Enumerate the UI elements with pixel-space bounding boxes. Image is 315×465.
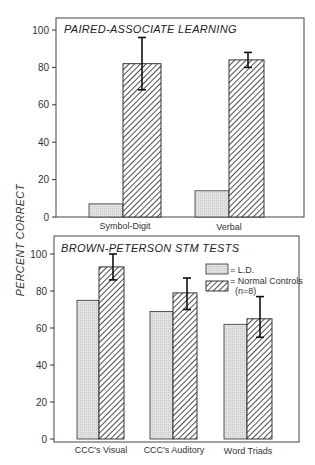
y-tick-label: 80 <box>38 62 50 73</box>
panel-title: PAIRED-ASSOCIATE LEARNING <box>64 23 237 35</box>
legend-swatch-normal <box>206 281 228 291</box>
y-axis: 0 20 40 60 80 100 <box>32 25 56 223</box>
legend-label-ld: = L.D. <box>230 265 254 275</box>
y-tick-label: 0 <box>43 212 49 223</box>
bar-ld-ccc-auditory <box>150 311 173 439</box>
y-tick-label: 60 <box>36 323 48 334</box>
y-axis-label: PERCENT CORRECT <box>14 183 26 297</box>
y-tick-label: 100 <box>32 25 49 36</box>
chart-brown-peterson: BROWN-PETERSON STM TESTS 0 20 40 60 80 1… <box>30 236 303 456</box>
bar-normal-verbal <box>229 60 264 217</box>
y-tick-label: 20 <box>38 174 50 185</box>
figure: PERCENT CORRECT PAIRED-ASSOCIATE LEARNIN… <box>0 0 315 465</box>
legend-label-normal-n: (n=8) <box>235 286 256 296</box>
y-tick-label: 80 <box>36 286 48 297</box>
y-tick-label: 100 <box>30 249 47 260</box>
x-category-label: Word Triads <box>224 446 273 456</box>
bar-ld-symbol-digit <box>89 204 123 217</box>
y-tick-label: 0 <box>41 434 47 445</box>
y-axis: 0 20 40 60 80 100 <box>30 249 54 445</box>
y-tick-label: 40 <box>36 360 48 371</box>
y-tick-label: 40 <box>38 137 50 148</box>
x-category-label: Symbol-Digit <box>99 221 151 231</box>
x-category-label: CCC's Visual <box>75 445 128 455</box>
bar-ld-ccc-visual <box>77 300 99 439</box>
y-tick-label: 60 <box>38 99 50 110</box>
chart-paired-associate: PAIRED-ASSOCIATE LEARNING 0 20 40 60 80 … <box>32 18 304 232</box>
y-tick-label: 20 <box>36 397 48 408</box>
bar-normal-ccc-visual <box>99 267 124 439</box>
bar-ld-verbal <box>195 191 229 217</box>
x-category-label: CCC's Auditory <box>144 445 205 455</box>
bar-ld-word-triads <box>224 324 247 439</box>
legend: = L.D. = Normal Controls (n=8) <box>206 264 303 296</box>
x-category-label: Verbal <box>216 222 242 232</box>
legend-swatch-ld <box>206 264 228 274</box>
panel-title: BROWN-PETERSON STM TESTS <box>61 242 240 254</box>
bar-normal-ccc-auditory <box>173 293 197 439</box>
legend-label-normal: = Normal Controls <box>230 276 303 286</box>
panel-frame <box>56 18 304 217</box>
